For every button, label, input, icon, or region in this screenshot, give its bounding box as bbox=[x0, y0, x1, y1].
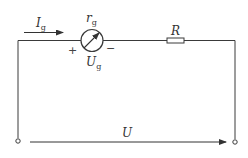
galvanometer bbox=[81, 30, 103, 52]
right-wire bbox=[184, 41, 235, 140]
galvanometer-voltage-label: Ug bbox=[86, 55, 101, 71]
right-terminal bbox=[233, 140, 237, 144]
resistor bbox=[167, 38, 184, 43]
current-label: Ig bbox=[35, 16, 46, 32]
minus-sign: − bbox=[106, 42, 115, 55]
plus-sign: + bbox=[68, 44, 77, 57]
resistor-label: R bbox=[170, 24, 180, 38]
left-terminal bbox=[16, 139, 20, 143]
total-voltage-label: U bbox=[122, 126, 133, 140]
galvanometer-resistance-label: rg bbox=[86, 11, 97, 27]
circuit-diagram: Ig rg Ug + − R U bbox=[0, 0, 248, 158]
